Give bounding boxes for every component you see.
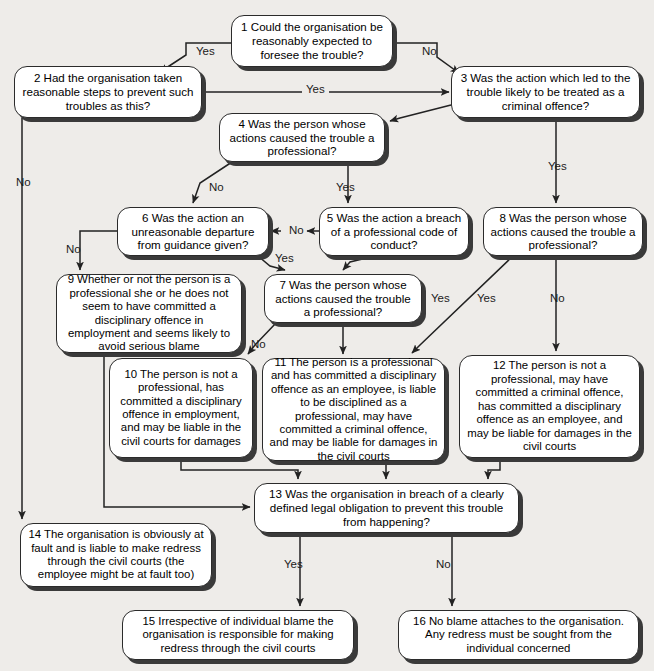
edge-8-yes-to-11	[412, 256, 513, 353]
node-13-text: 13 Was the organisation in breach of a c…	[261, 487, 512, 528]
node-11-text: 11 The person is a professional and has …	[269, 356, 438, 464]
edge-6-no-to-9	[80, 231, 117, 270]
node-14-text: 14 The organisation is obviously at faul…	[27, 528, 205, 582]
node-15[interactable]: 15 Irrespective of individual blame the …	[122, 610, 354, 660]
node-16-text: 16 No blame attaches to the organisation…	[405, 615, 632, 655]
edge-label-2-no: No	[16, 176, 31, 188]
node-15-text: 15 Irrespective of individual blame the …	[129, 615, 347, 655]
node-12[interactable]: 12 The person is not a professional, may…	[459, 355, 640, 458]
node-5[interactable]: 5 Was the action a breach of a professio…	[319, 207, 469, 256]
node-1-text: 1 Could the organisation be reasonably e…	[238, 20, 386, 61]
edge-label-1-no: No	[422, 45, 437, 57]
node-12-text: 12 The person is not a professional, may…	[466, 359, 633, 453]
node-5-text: 5 Was the action a breach of a professio…	[326, 211, 462, 252]
edge-label-5-no: No	[287, 224, 306, 236]
node-7-text: 7 Was the person whose actions caused th…	[271, 278, 415, 319]
edge-5-yes-to-7	[343, 256, 375, 270]
node-1[interactable]: 1 Could the organisation be reasonably e…	[231, 15, 393, 67]
edge-label-4-yes: Yes	[336, 181, 355, 193]
node-4[interactable]: 4 Was the person whose actions caused th…	[219, 113, 385, 162]
node-8[interactable]: 8 Was the person whose actions caused th…	[483, 207, 643, 256]
node-6-text: 6 Was the action an unreasonable departu…	[124, 211, 262, 252]
edge-3-no-to-4	[390, 105, 451, 121]
edge-label-1-yes: Yes	[196, 45, 215, 57]
edge-label-13-yes: Yes	[284, 558, 303, 570]
node-7[interactable]: 7 Was the person whose actions caused th…	[264, 274, 422, 323]
node-16[interactable]: 16 No blame attaches to the organisation…	[398, 610, 639, 660]
edge-12-to-13	[488, 458, 500, 479]
node-10[interactable]: 10 The person is not a professional, has…	[109, 358, 253, 458]
node-3[interactable]: 3 Was the action which led to the troubl…	[451, 66, 640, 118]
edge-label-6-no: No	[66, 243, 81, 255]
node-2-text: 2 Had the organisation taken reasonable …	[21, 71, 195, 112]
node-13[interactable]: 13 Was the organisation in breach of a c…	[254, 483, 519, 533]
edge-label-2-yes: Yes	[302, 83, 329, 95]
edge-label-7-yes: Yes	[431, 292, 450, 304]
edge-label-13-no: No	[436, 558, 451, 570]
node-2[interactable]: 2 Had the organisation taken reasonable …	[14, 66, 202, 118]
node-6[interactable]: 6 Was the action an unreasonable departu…	[117, 207, 269, 256]
edge-label-8-no: No	[550, 292, 565, 304]
node-9[interactable]: 9 Whether or not the person is a profess…	[56, 274, 242, 353]
edge-label-7-no: No	[251, 338, 266, 350]
edge-label-3-yes: Yes	[548, 160, 567, 172]
edge-label-5-yes: Yes	[275, 252, 294, 264]
flowchart-canvas: 1 Could the organisation be reasonably e…	[0, 0, 654, 671]
node-3-text: 3 Was the action which led to the troubl…	[458, 71, 633, 112]
node-10-text: 10 The person is not a professional, has…	[116, 368, 246, 449]
node-8-text: 8 Was the person whose actions caused th…	[490, 211, 636, 252]
node-9-text: 9 Whether or not the person is a profess…	[63, 273, 235, 354]
node-14[interactable]: 14 The organisation is obviously at faul…	[20, 523, 212, 587]
edge-label-8-yes: Yes	[477, 292, 496, 304]
node-11[interactable]: 11 The person is a professional and has …	[262, 358, 445, 461]
edge-label-4-no: No	[209, 181, 224, 193]
node-4-text: 4 Was the person whose actions caused th…	[226, 117, 378, 158]
